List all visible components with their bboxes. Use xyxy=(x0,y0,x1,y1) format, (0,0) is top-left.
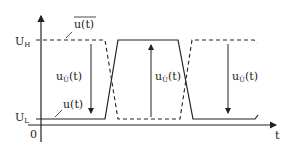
arrow-label-1: uÜ(t) xyxy=(56,70,82,84)
signal-diagram: t 0 UH UL u(t) u(t) uÜ(t) uÜ(t) uÜ(t) xyxy=(0,0,294,146)
x-axis-label: t xyxy=(275,129,280,142)
svg-text:u(t): u(t) xyxy=(74,18,94,31)
u-leader-line xyxy=(55,110,62,117)
origin-label: 0 xyxy=(30,128,37,141)
u-bar-label: u(t) xyxy=(74,17,96,31)
svg-text:UL: UL xyxy=(15,111,29,125)
level-high-label: UH xyxy=(15,35,30,49)
u-label: u(t) xyxy=(63,98,83,111)
svg-text:UH: UH xyxy=(15,35,30,49)
u-bar-leader-line xyxy=(66,32,72,38)
level-low-label: UL xyxy=(15,111,29,125)
arrow-label-2: uÜ(t) xyxy=(155,70,181,84)
arrow-label-3: uÜ(t) xyxy=(232,70,258,84)
